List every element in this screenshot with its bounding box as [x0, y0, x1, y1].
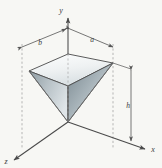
dimension-b-label: b [38, 38, 42, 47]
figure-container: b a h y x z [0, 0, 162, 168]
dimension-a-label: a [90, 35, 94, 44]
dimension-h-label: h [126, 101, 130, 110]
y-axis-label: y [58, 6, 63, 15]
x-axis-label: x [150, 145, 155, 154]
pyramid-diagram: b a h y x z [0, 0, 162, 168]
